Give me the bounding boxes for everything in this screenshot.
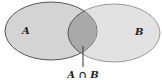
intersection-label: A ∩ B (66, 69, 99, 80)
venn-diagram: A B A ∩ B (0, 0, 162, 80)
set-b-label: B (134, 26, 143, 37)
set-a-label: A (21, 25, 30, 36)
